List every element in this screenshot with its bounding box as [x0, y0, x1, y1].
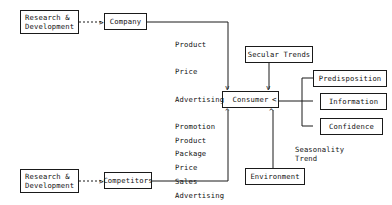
node-information[interactable]: Information — [320, 93, 387, 110]
node-competitors[interactable]: Competitors — [104, 172, 152, 189]
node-label-line1: Research & — [25, 172, 70, 181]
node-label-line2: Development — [25, 181, 74, 190]
node-secular-trends[interactable]: Secular Trends — [245, 46, 313, 63]
edge-label-line2: Trend — [295, 154, 317, 163]
arrow-right-icon-company: > — [99, 19, 104, 27]
node-company[interactable]: Company — [104, 13, 147, 30]
node-label-line1: Secular Trends — [248, 50, 311, 59]
attribute-item: Price — [175, 67, 229, 76]
arrow-down-icon-consumer-top-left: v — [225, 84, 230, 92]
node-consumer[interactable]: Consumer — [222, 91, 279, 108]
node-label-line1: Competitors — [103, 176, 152, 185]
arrow-up-icon-consumer-bottom-right: ^ — [269, 108, 274, 116]
edge-label-seasonality-trend: Seasonality Trend — [277, 136, 344, 172]
arrow-up-icon-consumer-bottom-left: ^ — [225, 108, 230, 116]
node-research-development-company[interactable]: Research & Development — [20, 10, 79, 34]
node-label-line1: Environment — [250, 172, 299, 181]
arrow-left-icon-consumer-right: < — [272, 96, 277, 104]
node-label-line1: Confidence — [329, 122, 374, 131]
node-label-line1: Predisposition — [319, 74, 382, 83]
edge-label-line1: Seasonality — [295, 145, 344, 154]
arrow-right-icon-competitors: > — [99, 178, 104, 186]
node-label-line1: Information — [329, 97, 378, 106]
wire-factor-bus — [302, 78, 313, 126]
attribute-item: Advertising — [175, 95, 229, 104]
arrow-down-icon-consumer-top-right: v — [266, 84, 271, 92]
node-label-line2: Development — [25, 22, 74, 31]
node-label-line1: Research & — [25, 13, 70, 22]
node-research-development-competitors[interactable]: Research & Development — [20, 169, 79, 193]
node-label-line1: Consumer — [233, 95, 269, 104]
attribute-item: Price — [175, 163, 229, 172]
consumer-behavior-diagram: Research & Development Company Research … — [0, 0, 392, 205]
attribute-list-competitors: Product Price Advertising Promotion Pack… — [175, 118, 229, 205]
node-predisposition[interactable]: Predisposition — [313, 70, 387, 87]
attribute-item: Product — [175, 40, 229, 49]
attribute-item: Advertising — [175, 191, 229, 200]
node-confidence[interactable]: Confidence — [320, 118, 383, 135]
node-label-line1: Company — [110, 17, 141, 26]
attribute-item: Product — [175, 136, 229, 145]
